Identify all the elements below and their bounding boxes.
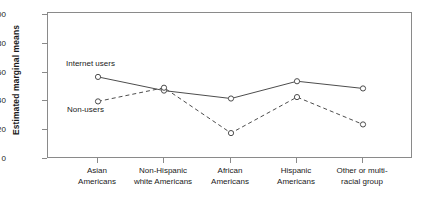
series-label-non-users: Non-users — [67, 105, 104, 114]
chart-figure: Estimated marginal means 100806040200 As… — [0, 0, 424, 200]
data-point-marker — [228, 96, 233, 101]
y-tick-label: 40 — [0, 96, 6, 105]
y-tick-label: 60 — [0, 67, 6, 76]
y-tick-label: 80 — [0, 38, 6, 47]
data-point-marker — [294, 79, 299, 84]
plot-area — [47, 12, 412, 158]
data-point-marker — [95, 99, 100, 104]
y-tick-label: 20 — [0, 125, 6, 134]
y-axis-title-text: Estimated marginal means — [11, 25, 21, 135]
y-tick-mark — [42, 158, 47, 159]
x-tick-label-line: racial group — [310, 177, 414, 188]
x-tick-label: Other or multi-racial group — [310, 166, 414, 187]
data-point-marker — [360, 86, 365, 91]
data-point-marker — [228, 130, 233, 135]
data-point-marker — [161, 85, 166, 90]
series-line-internet-users — [98, 77, 363, 99]
series-label-internet-users: Internet users — [66, 59, 115, 68]
y-tick-label: 0 — [0, 154, 6, 163]
data-point-marker — [95, 74, 100, 79]
data-point-marker — [360, 122, 365, 127]
series-line-non-users — [98, 88, 363, 133]
x-tick-label-line: Other or multi- — [310, 166, 414, 177]
y-tick-label: 100 — [0, 10, 6, 19]
y-axis-title: Estimated marginal means — [8, 0, 24, 160]
data-point-marker — [294, 94, 299, 99]
data-lines-layer — [48, 13, 413, 159]
